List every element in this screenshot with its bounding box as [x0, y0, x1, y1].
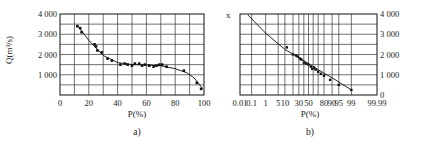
data-point [144, 63, 147, 66]
x-tick-label: 0.1 [246, 98, 257, 108]
x-tick-label: 80 [171, 98, 180, 108]
data-point [124, 62, 127, 65]
data-point [119, 63, 122, 66]
data-point [80, 31, 83, 34]
x-axis-ticks-a: 020406080100 [58, 98, 211, 108]
y-tick-label: 4 000 [38, 9, 57, 19]
chart-panel-a: 1 0002 0003 0004 000 020406080100 Q(m³/s… [4, 9, 210, 138]
data-point [329, 79, 331, 81]
data-point [111, 59, 114, 62]
data-point [100, 51, 103, 54]
data-point [96, 49, 99, 52]
x-tick-label: 95 [335, 98, 344, 108]
data-point [350, 89, 352, 91]
data-point [314, 68, 316, 70]
data-point [76, 25, 79, 28]
y-axis-label-a: Q(m³/s) [4, 36, 14, 64]
data-point [148, 64, 151, 67]
x-axis-ticks-b: 0.010.1151030508090959999.99 [233, 98, 387, 108]
chart-panel-b: 01 0002 0003 0004 000 0.010.115103050809… [226, 9, 399, 138]
data-point [158, 63, 161, 66]
x-axis-label-a: P(%) [128, 109, 147, 119]
y-axis-ticks-b: 01 0002 0003 0004 000 [380, 9, 399, 100]
data-point [200, 88, 203, 91]
data-point [305, 62, 307, 64]
data-point [106, 57, 109, 60]
data-point [338, 84, 340, 86]
x-tick-label: 99 [347, 98, 356, 108]
data-point [196, 82, 199, 85]
data-point [138, 62, 141, 65]
x-tick-label: 20 [85, 98, 94, 108]
data-point [131, 64, 134, 67]
y-tick-label: 2 000 [38, 50, 57, 60]
x-axis-label-b: P(%) [301, 109, 320, 119]
x-tick-label: 99.99 [367, 98, 386, 108]
y-axis-ticks-a: 1 0002 0003 0004 000 [38, 9, 57, 80]
data-point [161, 63, 164, 66]
data-point [165, 65, 168, 68]
x-tick-label: 30 [295, 98, 304, 108]
y-tick-label: 4 000 [380, 9, 399, 19]
data-point [317, 71, 319, 73]
x-tick-label: 10 [281, 98, 290, 108]
data-point [303, 61, 305, 63]
y-tick-label: 1 000 [38, 70, 57, 80]
data-point [134, 62, 137, 65]
data-point [320, 73, 322, 75]
data-point [183, 69, 186, 72]
y-axis-label-b: x [226, 10, 231, 20]
x-tick-label: 1 [264, 98, 268, 108]
data-point [141, 64, 144, 67]
x-tick-label: 0.01 [233, 98, 248, 108]
x-tick-label: 0 [58, 98, 62, 108]
x-tick-label: 50 [304, 98, 313, 108]
y-tick-label: 3 000 [380, 29, 399, 39]
fitted-curve-a [77, 25, 202, 89]
data-point [152, 65, 155, 68]
y-tick-label: 1 000 [380, 70, 399, 80]
data-point [155, 64, 158, 67]
data-point [292, 53, 294, 55]
data-point [126, 63, 129, 66]
data-point [307, 63, 309, 65]
grid-b [240, 14, 377, 95]
caption-a: a) [133, 127, 140, 138]
chart-canvas: 1 0002 0003 0004 000 020406080100 Q(m³/s… [0, 0, 423, 144]
data-point [95, 45, 98, 48]
x-tick-label: 40 [113, 98, 122, 108]
data-point [323, 75, 325, 77]
caption-b: b) [306, 127, 314, 138]
data-point [79, 27, 82, 30]
grid-a [60, 14, 204, 95]
y-tick-label: 3 000 [38, 29, 57, 39]
data-point [300, 58, 302, 60]
x-tick-label: 100 [198, 98, 211, 108]
data-point [286, 46, 288, 48]
data-points-a [76, 25, 202, 90]
x-tick-label: 60 [142, 98, 151, 108]
y-tick-label: 2 000 [380, 50, 399, 60]
data-point [297, 55, 299, 57]
fitted-line-b [248, 15, 351, 90]
